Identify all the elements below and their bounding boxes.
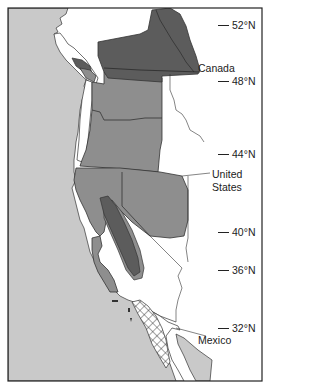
- label-united-states-2: States: [212, 181, 242, 193]
- washington-oregon-range: [80, 72, 162, 172]
- latitude-tick-32: 32°N: [218, 322, 255, 334]
- latitude-tick-48: 48°N: [218, 75, 255, 87]
- latitude-tick-44: 44°N: [218, 148, 255, 160]
- label-united-states-1: United: [212, 168, 242, 180]
- latitude-tick-36: 36°N: [218, 264, 255, 276]
- latitude-tick-40: 40°N: [218, 226, 255, 238]
- label-canada: Canada: [198, 62, 235, 74]
- label-mexico: Mexico: [198, 334, 231, 346]
- latitude-tick-52: 52°N: [218, 19, 255, 31]
